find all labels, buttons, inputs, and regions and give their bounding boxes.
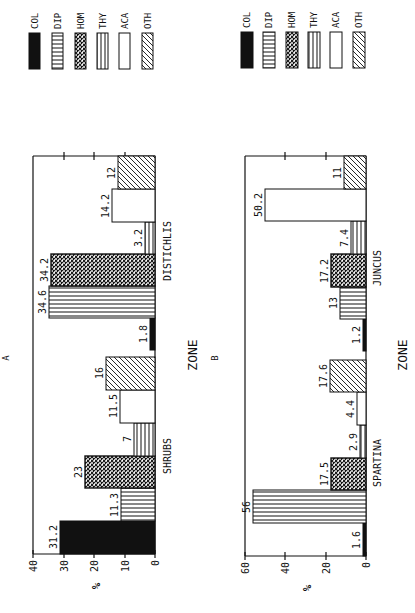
bar-oth	[106, 357, 155, 390]
bar-dip	[121, 488, 155, 521]
value-label: 12	[106, 167, 117, 179]
bar-oth	[330, 360, 366, 392]
chart-a: 0 10 20 30 40 % 31.2 11.3 23 7 11.5 16 S…	[1, 152, 200, 589]
chart-b-category-spartina: SPARTINA	[372, 439, 383, 487]
bar-col	[363, 523, 366, 556]
legend-label: HOM	[76, 12, 86, 29]
chart-a-group-distichlis	[49, 156, 155, 350]
legend-label: THY	[309, 11, 319, 28]
figure-svg: 0 10 20 30 40 % 31.2 11.3 23 7 11.5 16 S…	[0, 0, 415, 613]
tick-label: 40	[280, 562, 291, 574]
legend-b: COL DIP HOM THY ACA OTH	[241, 11, 365, 68]
chart-a-tick-labels: 0 10 20 30 40	[28, 560, 161, 572]
tick-label: 0	[150, 560, 161, 566]
bar-thy	[145, 222, 155, 254]
value-label: 11	[332, 167, 343, 179]
bar-col	[150, 318, 155, 350]
tick-label: 0	[361, 562, 372, 568]
chart-a-category-shrubs: SHRUBS	[162, 438, 173, 474]
value-label: 11.3	[109, 493, 120, 517]
bar-dip	[340, 287, 366, 319]
tick-label: 20	[321, 562, 332, 574]
chart-a-group-shrubs	[60, 357, 155, 554]
chart-b-xlabel: ZONE	[395, 339, 410, 370]
value-label: 34.6	[37, 290, 48, 314]
chart-b: 0 20 40 60 % 1.6 56 17.5 2.9 4.4 17.6 SP…	[240, 152, 410, 591]
value-label: 23	[73, 466, 84, 478]
tick-label: 60	[240, 562, 251, 574]
legend-swatch-col	[241, 32, 253, 68]
chart-b-category-juncus: JUNCUS	[372, 250, 383, 286]
value-label: 7.4	[339, 229, 350, 247]
bar-aca	[120, 390, 155, 423]
legend-swatch-oth	[142, 33, 153, 69]
legend-label: DIP	[53, 12, 63, 29]
bar-dip	[49, 286, 155, 318]
bar-aca	[112, 189, 155, 222]
bar-thy	[134, 423, 155, 456]
legend-swatch-col	[29, 33, 40, 69]
value-label: 31.2	[48, 525, 59, 549]
chart-b-ylabel: %	[301, 584, 314, 591]
value-label: 56	[241, 501, 252, 513]
legend-label: ACA	[331, 11, 341, 28]
chart-b-panel-label: B	[210, 355, 220, 360]
value-label: 4.4	[345, 400, 356, 418]
chart-a-panel-label: A	[1, 355, 11, 361]
value-label: 2.9	[348, 433, 359, 451]
bar-hom	[51, 254, 155, 286]
figure-stage: 0 10 20 30 40 % 31.2 11.3 23 7 11.5 16 S…	[0, 0, 415, 613]
bar-hom	[85, 456, 155, 488]
chart-a-ylabel: %	[90, 582, 103, 589]
legend-label: OTH	[143, 13, 153, 29]
value-label: 3.2	[133, 229, 144, 247]
legend-swatch-thy	[97, 33, 108, 69]
bar-col	[363, 319, 366, 351]
chart-b-group-spartina	[253, 360, 366, 556]
legend-swatch-aca	[119, 33, 130, 69]
bar-hom	[331, 254, 366, 287]
value-label: 1.6	[351, 531, 362, 549]
legend-label: HOM	[287, 11, 297, 28]
value-label: 14.2	[100, 194, 111, 218]
bar-oth	[344, 156, 366, 189]
value-label: 17.2	[319, 259, 330, 283]
legend-swatch-thy	[308, 32, 320, 68]
value-label: 16	[94, 367, 105, 379]
chart-b-tick-labels: 0 20 40 60	[240, 562, 372, 574]
value-label: 1.2	[351, 326, 362, 344]
legend-a-labels: COL DIP HOM THY ACA OTH	[30, 12, 153, 29]
legend-label: DIP	[264, 11, 274, 28]
value-label: 17.5	[319, 462, 330, 486]
value-label: 7	[122, 436, 133, 442]
legend-label: THY	[98, 12, 108, 29]
chart-a-category-distichlis: DISTICHLIS	[162, 221, 173, 281]
tick-label: 10	[120, 560, 131, 572]
tick-label: 20	[89, 560, 100, 572]
bar-thy	[351, 221, 366, 254]
value-label: 13	[328, 297, 339, 309]
bar-hom	[331, 458, 366, 490]
chart-a-xlabel: ZONE	[185, 339, 200, 370]
value-label: 34.2	[39, 258, 50, 282]
chart-b-group-juncus	[265, 156, 366, 351]
legend-label: COL	[242, 12, 252, 28]
bar-aca	[357, 392, 366, 425]
value-label: 17.6	[318, 364, 329, 388]
bar-dip	[253, 490, 366, 523]
tick-label: 40	[28, 560, 39, 572]
value-label: 50.2	[253, 193, 264, 217]
legend-swatch-hom	[286, 32, 298, 68]
legend-swatch-hom	[75, 33, 86, 69]
bar-aca	[265, 189, 366, 221]
legend-swatch-dip	[52, 33, 63, 69]
bar-oth	[118, 156, 155, 189]
value-label: 11.5	[108, 394, 119, 418]
bar-thy	[360, 425, 366, 458]
legend-label: ACA	[120, 12, 130, 29]
value-label: 1.8	[138, 325, 149, 343]
legend-a: COL DIP HOM THY ACA OTH	[29, 12, 153, 69]
legend-b-labels: COL DIP HOM THY ACA OTH	[242, 11, 364, 28]
tick-label: 30	[59, 560, 70, 572]
legend-swatch-dip	[263, 32, 275, 68]
